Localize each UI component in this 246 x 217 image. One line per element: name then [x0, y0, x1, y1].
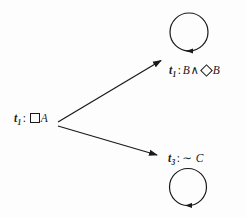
arrow-root-to-top [58, 61, 161, 123]
root-proposition: A [41, 112, 48, 124]
arrow-root-to-bottom [58, 126, 157, 155]
conjunction-operator: ∧ [190, 64, 200, 76]
self-loop-top-circle [170, 13, 208, 51]
root-separator: : [21, 112, 27, 124]
top-proposition-right: B [213, 64, 220, 76]
self-loop-bottom-circle [170, 169, 207, 206]
diagram-canvas: t1:A t1:B∧B t3:∼ C [0, 0, 246, 217]
root-node-label: t1:A [14, 112, 48, 127]
diamond-operator-icon [200, 64, 213, 77]
bottom-separator: : [175, 152, 181, 164]
top-node-label: t1:B∧B [169, 63, 220, 79]
top-proposition-left: B [183, 64, 190, 76]
bottom-proposition: C [196, 152, 204, 164]
box-operator-icon [30, 113, 40, 123]
negation-operator: ∼ [182, 152, 193, 164]
bottom-node-label: t3:∼ C [168, 151, 204, 167]
diagram-svg [0, 0, 246, 217]
